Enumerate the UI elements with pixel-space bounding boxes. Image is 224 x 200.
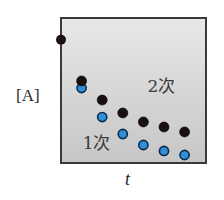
series-label-second-order: 2次: [148, 76, 176, 96]
second-order-point: [118, 108, 128, 118]
first-order-point: [139, 140, 148, 149]
second-order-point: [97, 95, 107, 105]
x-axis-label: t: [125, 170, 130, 188]
second-order-point: [138, 117, 148, 127]
kinetics-chart: 2次1次 [A] t: [0, 0, 224, 200]
first-order-point: [118, 129, 127, 138]
second-order-point: [77, 76, 87, 86]
first-order-point: [159, 146, 168, 155]
series-label-first-order: 1次: [83, 133, 111, 153]
initial-concentration-point: [56, 35, 66, 45]
y-axis-label: [A]: [16, 87, 40, 104]
second-order-point: [180, 127, 190, 137]
second-order-point: [159, 122, 169, 132]
first-order-point: [180, 150, 189, 159]
first-order-point: [98, 112, 107, 121]
